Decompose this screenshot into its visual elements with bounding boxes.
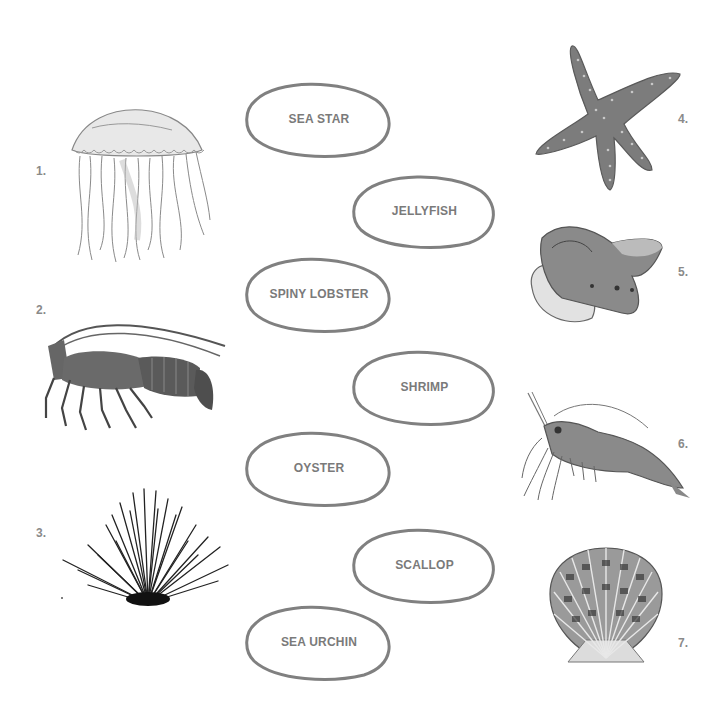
- shrimp-illustration: [518, 388, 693, 503]
- sea-star-illustration: [532, 40, 684, 192]
- picture-number-3: 3.: [36, 526, 46, 540]
- label-text: SPINY LOBSTER: [246, 287, 392, 301]
- label-text: SCALLOP: [353, 558, 496, 572]
- label-oval-oyster[interactable]: OYSTER: [246, 429, 392, 506]
- sea-urchin-illustration: [58, 485, 233, 610]
- jellyfish-illustration: [62, 100, 212, 265]
- picture-number-1: 1.: [36, 164, 46, 178]
- picture-number-7: 7.: [678, 636, 688, 650]
- spiny-lobster-illustration: [40, 318, 230, 436]
- label-oval-spiny-lobster[interactable]: SPINY LOBSTER: [246, 255, 392, 332]
- scallop-illustration: [546, 544, 666, 664]
- picture-number-5: 5.: [678, 265, 688, 279]
- label-oval-scallop[interactable]: SCALLOP: [353, 526, 496, 603]
- label-oval-sea-star[interactable]: SEA STAR: [246, 80, 392, 157]
- oyster-illustration: [522, 218, 667, 328]
- label-text: SEA STAR: [246, 112, 392, 126]
- label-text: JELLYFISH: [353, 204, 496, 218]
- label-text: SEA URCHIN: [246, 635, 392, 649]
- label-oval-shrimp[interactable]: SHRIMP: [353, 348, 496, 425]
- label-oval-jellyfish[interactable]: JELLYFISH: [353, 173, 496, 248]
- label-text: SHRIMP: [353, 380, 496, 394]
- picture-number-2: 2.: [36, 303, 46, 317]
- label-oval-sea-urchin[interactable]: SEA URCHIN: [246, 603, 392, 680]
- label-text: OYSTER: [246, 461, 392, 475]
